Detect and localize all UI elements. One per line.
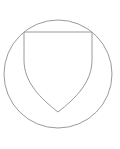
shield-icon	[24, 32, 92, 112]
shield-in-circle-diagram	[0, 0, 120, 149]
